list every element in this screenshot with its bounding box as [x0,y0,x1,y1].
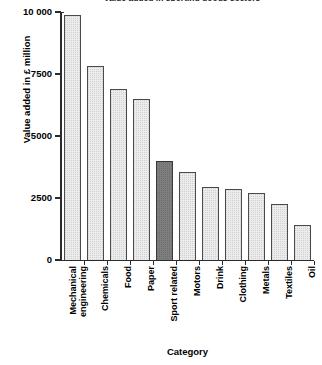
y-tick-label: 5000 [31,131,52,140]
bar [156,161,173,261]
y-axis-title: Value added in £ million [21,10,32,170]
x-axis-labels: MechanicalengineeringChemicalsFoodPaperS… [61,266,314,342]
x-tick-label: Metals [261,266,271,294]
x-tick-mark [130,261,131,265]
x-tick-mark [268,261,269,265]
chart-title: Value added in sporting goods sectors [46,0,318,1]
x-tick-mark [245,261,246,265]
x-tick-mark [314,261,315,265]
bar [225,189,242,261]
bar-chart: Value added in sporting goods sectors Va… [0,0,322,365]
bar [133,99,150,261]
bar [87,66,104,261]
x-tick-label: Oil [307,266,317,278]
x-tick-label: Sport related [169,266,179,322]
x-tick-label: Mechanicalengineering [68,266,88,342]
bar [179,172,196,261]
bar [202,187,219,261]
bar [64,15,81,261]
x-tick-label: Drink [215,266,225,289]
x-tick-mark [153,261,154,265]
x-axis-line [60,260,314,261]
bar [294,225,311,261]
bar [110,89,127,261]
x-tick-label: Paper [146,266,156,291]
y-tick-label: 7500 [31,69,52,78]
y-tick-label: 10 000 [23,7,52,16]
x-tick-label: Textiles [284,266,294,299]
x-axis-title: Category [61,346,314,357]
x-tick-mark [291,261,292,265]
bar-series [61,12,314,261]
x-tick-mark [222,261,223,265]
x-tick-mark [176,261,177,265]
x-tick-label: Clothing [238,266,248,303]
x-tick-label: Chemicals [100,266,110,311]
y-tick-label: 2500 [31,193,52,202]
x-tick-label: Food [123,266,133,288]
x-tick-mark [107,261,108,265]
y-tick-label: 0 [47,255,52,264]
x-tick-mark [199,261,200,265]
x-tick-label: Motors [192,266,202,296]
bar [271,204,288,261]
bar [248,193,265,261]
x-tick-mark [84,261,85,265]
